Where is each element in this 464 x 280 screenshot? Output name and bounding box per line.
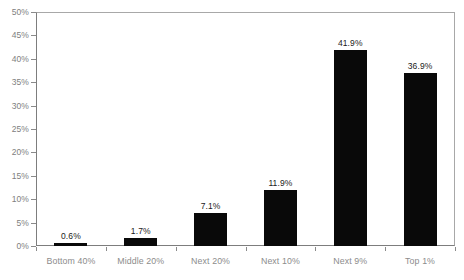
y-axis-tick-mark	[31, 176, 36, 177]
y-axis-tick-mark	[31, 106, 36, 107]
y-axis-tick-label: 25%	[12, 124, 29, 134]
y-axis-tick-label: 20%	[12, 147, 29, 157]
y-axis-tick-label: 15%	[12, 171, 29, 181]
y-axis-tick-mark	[31, 129, 36, 130]
bar	[264, 190, 297, 246]
bar-value-label: 41.9%	[338, 38, 363, 48]
x-axis-tick-mark	[315, 247, 316, 251]
y-axis-tick-mark	[31, 12, 36, 13]
x-axis-category-label: Bottom 40%	[46, 256, 95, 266]
x-axis-category-label: Next 9%	[333, 256, 367, 266]
bar-value-label: 0.6%	[61, 231, 81, 241]
x-axis-tick-mark	[385, 247, 386, 251]
y-axis: 0%5%10%15%20%25%30%35%40%45%50%	[0, 0, 36, 280]
y-axis-tick-mark	[31, 35, 36, 36]
x-axis-category-label: Next 20%	[191, 256, 230, 266]
bar-value-label: 11.9%	[268, 178, 292, 188]
bar	[124, 238, 157, 246]
y-axis-tick-label: 0%	[17, 241, 30, 251]
bar	[334, 50, 367, 246]
y-axis-tick-mark	[31, 223, 36, 224]
x-axis-tick-mark	[176, 247, 177, 251]
y-axis-tick-label: 30%	[12, 101, 29, 111]
y-axis-tick-label: 45%	[12, 30, 29, 40]
y-axis-tick-mark	[31, 59, 36, 60]
y-axis-tick-label: 50%	[12, 7, 29, 17]
bar-value-label: 36.9%	[408, 61, 433, 71]
bar	[54, 243, 87, 246]
x-axis-tick-mark	[246, 247, 247, 251]
x-axis-category-label: Top 1%	[405, 256, 435, 266]
x-axis-tick-mark	[106, 247, 107, 251]
x-axis-tick-mark	[455, 247, 456, 251]
plot-area	[36, 12, 455, 246]
bar-value-label: 7.1%	[201, 201, 221, 211]
x-axis-category-label: Middle 20%	[117, 256, 164, 266]
y-axis-tick-mark	[31, 199, 36, 200]
bar	[194, 213, 227, 246]
y-axis-tick-label: 5%	[17, 218, 30, 228]
y-axis-tick-label: 10%	[12, 194, 29, 204]
bar-chart: 0%5%10%15%20%25%30%35%40%45%50% 0.6%Bott…	[0, 0, 464, 280]
y-axis-tick-mark	[31, 82, 36, 83]
y-axis-tick-label: 35%	[12, 77, 29, 87]
x-axis-category-label: Next 10%	[261, 256, 300, 266]
y-axis-tick-mark	[31, 152, 36, 153]
bar-value-label: 1.7%	[131, 226, 151, 236]
x-axis-tick-mark	[36, 247, 37, 251]
y-axis-tick-label: 40%	[12, 54, 29, 64]
bar	[404, 73, 437, 246]
